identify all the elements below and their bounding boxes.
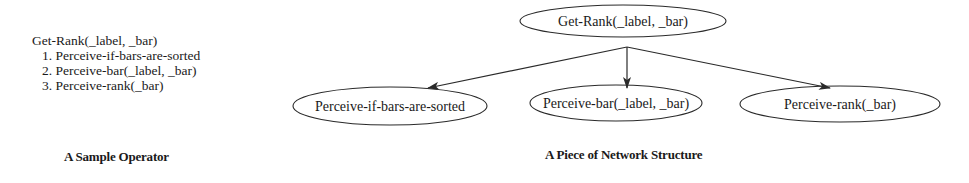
network-structure-caption: A Piece of Network Structure [545,147,702,163]
child-node-rank-label: Perceive-rank(_bar) [784,97,896,113]
child-node-bar: Perceive-bar(_label, _bar) [530,85,702,121]
child-node-sorted-label: Perceive-if-bars-are-sorted [315,99,465,114]
child-node-sorted: Perceive-if-bars-are-sorted [293,87,487,125]
root-node: Get-Rank(_label, _bar) [520,5,726,37]
edge-to-sorted [428,47,627,88]
edge-to-rank [627,47,830,88]
child-node-rank: Perceive-rank(_bar) [740,86,940,122]
child-node-bar-label: Perceive-bar(_label, _bar) [543,96,689,112]
network-diagram: Get-Rank(_label, _bar) Perceive-if-bars-… [0,0,969,183]
edges [428,47,830,88]
root-node-label: Get-Rank(_label, _bar) [558,14,688,30]
